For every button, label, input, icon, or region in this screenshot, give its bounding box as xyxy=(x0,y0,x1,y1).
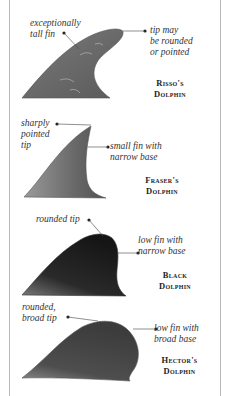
hector-dolphin-label: Hector's Dolphin xyxy=(147,355,212,377)
hector-fin xyxy=(22,321,138,381)
fraser-name-line2: Dolphin xyxy=(122,186,202,197)
black-annotation-base: low fin with narrow base xyxy=(138,235,185,257)
risso-dolphin-label: Risso's Dolphin xyxy=(130,78,210,100)
risso-annotation-tip: tip may be rounded or pointed xyxy=(150,25,193,58)
fraser-annotation-tip: sharply pointed tip xyxy=(21,118,50,151)
black-annotation-tip: rounded tip xyxy=(36,214,80,225)
black-name-line2: Dolphin xyxy=(140,281,210,292)
fraser-annotation-base: small fin with narrow base xyxy=(110,141,162,163)
fraser-dolphin-label: Fraser's Dolphin xyxy=(122,175,202,197)
risso-name-line1: Risso's xyxy=(130,78,210,89)
black-dolphin-fin xyxy=(22,234,126,296)
risso-name-line2: Dolphin xyxy=(130,89,210,100)
black-dolphin-label: Black Dolphin xyxy=(140,270,210,292)
fraser-name-line1: Fraser's xyxy=(122,175,202,186)
risso-annotation-tall-fin: exceptionally tall fin xyxy=(30,18,81,40)
black-name-line1: Black xyxy=(140,270,210,281)
hector-annotation-base: low fin with broad base xyxy=(154,323,199,345)
hector-annotation-tip: rounded, broad tip xyxy=(22,302,57,324)
hector-name-line2: Dolphin xyxy=(147,366,212,377)
hector-name-line1: Hector's xyxy=(147,355,212,366)
